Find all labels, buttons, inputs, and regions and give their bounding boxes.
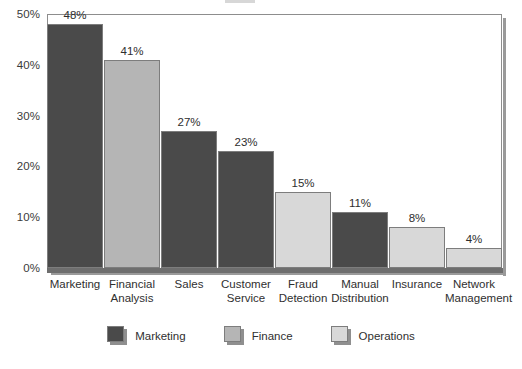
- bar-slot: 27%: [161, 14, 217, 268]
- x-axis-category-labels: MarketingFinancialAnalysisSalesCustomerS…: [47, 278, 502, 312]
- legend-item[interactable]: Marketing: [107, 326, 186, 346]
- y-axis-tick-label: 10%: [17, 212, 40, 223]
- bar-slot: 8%: [389, 14, 445, 268]
- legend-swatch-color: [224, 326, 241, 342]
- bar[interactable]: [47, 24, 103, 268]
- x-axis-category-label: NetworkManagement: [445, 278, 503, 305]
- legend-swatch-color: [107, 326, 124, 342]
- category-label-line2: Service: [217, 292, 275, 306]
- legend-label: Marketing: [135, 330, 186, 342]
- x-axis-category-label: FinancialAnalysis: [103, 278, 161, 305]
- legend-item[interactable]: Operations: [331, 326, 415, 346]
- legend-label: Operations: [359, 330, 415, 342]
- bar-chart: 0%10%20%30%40%50% 48%41%27%23%15%11%8%4%…: [0, 0, 522, 369]
- bar-value-label: 41%: [104, 45, 160, 57]
- category-label-line1: Network: [453, 278, 495, 290]
- legend-item[interactable]: Finance: [224, 326, 293, 346]
- x-axis-baseline: [47, 268, 503, 273]
- category-label-line2: Detection: [274, 292, 332, 306]
- category-label-line1: Insurance: [392, 278, 443, 290]
- bar[interactable]: [218, 151, 274, 268]
- bar-value-label: 15%: [275, 177, 331, 189]
- category-label-line2: Distribution: [331, 292, 389, 306]
- category-label-line1: Fraud: [288, 278, 318, 290]
- chart-legend: MarketingFinanceOperations: [0, 326, 522, 352]
- bar[interactable]: [332, 212, 388, 268]
- x-axis-category-label: CustomerService: [217, 278, 275, 305]
- category-label-line1: Sales: [175, 278, 204, 290]
- x-axis-category-label: Insurance: [388, 278, 446, 292]
- bar[interactable]: [446, 248, 502, 268]
- category-label-line1: Manual: [341, 278, 379, 290]
- bar-value-label: 27%: [161, 116, 217, 128]
- bar[interactable]: [275, 192, 331, 268]
- bar-slot: 11%: [332, 14, 388, 268]
- bar-value-label: 23%: [218, 136, 274, 148]
- x-axis-category-label: Sales: [160, 278, 218, 292]
- y-axis-tick-label: 30%: [17, 111, 40, 122]
- y-axis: 0%10%20%30%40%50%: [0, 14, 44, 272]
- category-label-line1: Customer: [221, 278, 271, 290]
- y-axis-tick-label: 40%: [17, 60, 40, 71]
- bar[interactable]: [104, 60, 160, 268]
- bars-layer: 48%41%27%23%15%11%8%4%: [47, 14, 502, 268]
- x-axis-category-label: Marketing: [46, 278, 104, 292]
- legend-swatch: [331, 326, 352, 346]
- x-axis-category-label: FraudDetection: [274, 278, 332, 305]
- bar-slot: 41%: [104, 14, 160, 268]
- category-label-line2: Management: [445, 292, 503, 306]
- legend-label: Finance: [252, 330, 293, 342]
- legend-swatch: [224, 326, 245, 346]
- bar-slot: 48%: [47, 14, 103, 268]
- legend-swatch: [107, 326, 128, 346]
- bar-value-label: 4%: [446, 233, 502, 245]
- y-axis-tick-label: 50%: [17, 9, 40, 20]
- x-axis-category-label: ManualDistribution: [331, 278, 389, 305]
- bar-slot: 15%: [275, 14, 331, 268]
- bar[interactable]: [389, 227, 445, 268]
- plot-shadow-right: [503, 18, 506, 276]
- bar-slot: 4%: [446, 14, 502, 268]
- category-label-line1: Financial: [109, 278, 155, 290]
- category-label-line2: Analysis: [103, 292, 161, 306]
- bar-value-label: 48%: [47, 9, 103, 21]
- bar-value-label: 8%: [389, 212, 445, 224]
- y-axis-tick-label: 20%: [17, 161, 40, 172]
- bar-value-label: 11%: [332, 197, 388, 209]
- title-artifact: [225, 0, 255, 3]
- bar[interactable]: [161, 131, 217, 268]
- category-label-line1: Marketing: [50, 278, 101, 290]
- legend-swatch-color: [331, 326, 348, 342]
- bar-slot: 23%: [218, 14, 274, 268]
- y-axis-tick-label: 0%: [23, 263, 40, 274]
